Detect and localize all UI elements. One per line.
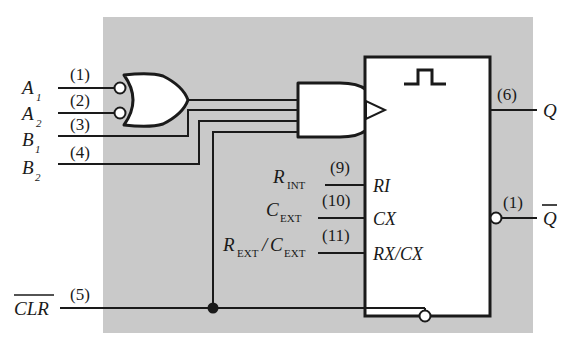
- and-gate: [298, 83, 375, 137]
- pin-label-b2: (4): [70, 143, 90, 162]
- input-label-b2: B: [22, 157, 34, 178]
- pin-label-9: (9): [330, 158, 350, 177]
- input-sub-a2: 2: [36, 117, 42, 129]
- input-label-b1: B: [22, 129, 34, 150]
- input-label-a2: A: [20, 103, 34, 124]
- input-sub-b1: 1: [35, 143, 41, 155]
- output-label-qbar: Q: [543, 208, 557, 229]
- pin-label-a1: (1): [70, 65, 90, 84]
- pin-label-11: (11): [322, 226, 350, 245]
- output-label-q: Q: [543, 100, 557, 121]
- clear-label: CLR: [14, 298, 49, 319]
- qbar-output-bubble: [491, 213, 502, 224]
- pin-label-a2: (2): [70, 91, 90, 110]
- nor-input-bubble-a2: [115, 108, 126, 119]
- timing-sub-cext: EXT: [280, 212, 302, 224]
- pin-label-5: (5): [70, 285, 90, 304]
- input-sub-b2: 2: [35, 171, 41, 183]
- clear-input-bubble: [420, 311, 431, 322]
- block-label-ri: RI: [372, 176, 391, 196]
- block-label-cx: CX: [373, 209, 397, 229]
- pin-label-10: (10): [322, 191, 350, 210]
- timing-sub-cext2: EXT: [284, 247, 306, 259]
- input-sub-a1: 1: [36, 91, 42, 103]
- nor-input-bubble-a1: [115, 83, 126, 94]
- pin-label-b1: (3): [70, 115, 90, 134]
- logic-diagram-svg: A 1 (1) A 2 (2) B 1 (3) B 2 (4) R INT (9…: [0, 0, 568, 356]
- input-label-a1: A: [20, 77, 34, 98]
- block-label-rxcx: RX/CX: [372, 244, 424, 264]
- timing-label-cext: C: [266, 199, 279, 220]
- timing-label-rextcext: R: [222, 234, 235, 255]
- timing-label-rint: R: [272, 166, 285, 187]
- figure-canvas: A 1 (1) A 2 (2) B 1 (3) B 2 (4) R INT (9…: [0, 0, 568, 356]
- timing-label-cext2: C: [270, 234, 283, 255]
- timing-sub-rint: INT: [287, 179, 306, 191]
- timing-sub-rext: EXT: [237, 247, 259, 259]
- pin-label-6: (6): [497, 85, 517, 104]
- clr-junction-dot: [208, 303, 219, 314]
- pin-label-1-out: (1): [503, 193, 523, 212]
